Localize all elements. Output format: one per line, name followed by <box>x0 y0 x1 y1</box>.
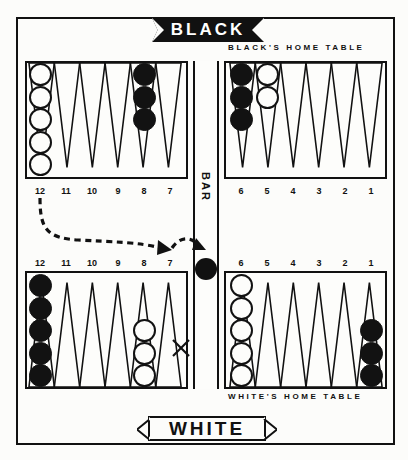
checker-black-point-12[interactable] <box>29 342 52 365</box>
banner-wedge-right <box>263 419 277 440</box>
checker-white-point-12[interactable] <box>29 63 52 86</box>
checker-black-point-8[interactable] <box>133 86 156 109</box>
point-number-bottom-left-7: 7 <box>162 258 178 268</box>
checker-black-point-8[interactable] <box>133 108 156 131</box>
checker-black-point-12[interactable] <box>29 274 52 297</box>
point-number-top-left-7: 7 <box>162 186 178 196</box>
checker-black-point-1[interactable] <box>360 319 383 342</box>
checker-white-point-8[interactable] <box>133 364 156 387</box>
point-number-bottom-right-1: 1 <box>363 258 379 268</box>
checker-white-point-8[interactable] <box>133 342 156 365</box>
banner-wedge-left <box>137 419 151 440</box>
checker-black-point-8[interactable] <box>133 63 156 86</box>
checker-white-point-6[interactable] <box>230 319 253 342</box>
point-number-bottom-right-6: 6 <box>233 258 249 268</box>
checker-black-point-12[interactable] <box>29 319 52 342</box>
black-player-banner: BLACK <box>152 18 264 42</box>
point-number-top-left-8: 8 <box>136 186 152 196</box>
white-player-banner: WHITE <box>148 416 266 441</box>
black-home-table-caption: BLACK'S HOME TABLE <box>228 43 365 52</box>
backgammon-board: BLACK BLACK'S HOME TABLE <box>0 0 408 460</box>
checker-black-point-1[interactable] <box>360 342 383 365</box>
point-number-top-right-4: 4 <box>285 186 301 196</box>
checker-white-point-12[interactable] <box>29 108 52 131</box>
point-number-bottom-left-9: 9 <box>110 258 126 268</box>
point-number-top-right-1: 1 <box>363 186 379 196</box>
point-number-top-left-10: 10 <box>84 186 100 196</box>
point-number-top-right-5: 5 <box>259 186 275 196</box>
point-number-bottom-left-12: 12 <box>32 258 48 268</box>
checker-black-point-12[interactable] <box>29 364 52 387</box>
white-player-label: WHITE <box>169 418 245 440</box>
point-number-bottom-right-5: 5 <box>259 258 275 268</box>
white-home-table-caption: WHITE'S HOME TABLE <box>228 392 362 401</box>
checker-white-point-6[interactable] <box>230 364 253 387</box>
checker-white-point-12[interactable] <box>29 86 52 109</box>
point-number-bottom-right-4: 4 <box>285 258 301 268</box>
point-number-top-left-12: 12 <box>32 186 48 196</box>
checker-white-point-8[interactable] <box>133 319 156 342</box>
point-number-bottom-left-8: 8 <box>136 258 152 268</box>
checker-white-point-6[interactable] <box>230 274 253 297</box>
bar-label: BAR <box>200 172 212 202</box>
checker-black-point-1[interactable] <box>360 364 383 387</box>
point-number-top-right-3: 3 <box>311 186 327 196</box>
point-number-bottom-right-3: 3 <box>311 258 327 268</box>
checker-black-point-6[interactable] <box>230 108 253 131</box>
checker-black-point-6[interactable] <box>230 86 253 109</box>
point-number-top-right-2: 2 <box>337 186 353 196</box>
target-x-icon <box>170 337 192 359</box>
checker-white-point-12[interactable] <box>29 131 52 154</box>
point-number-bottom-right-2: 2 <box>337 258 353 268</box>
checker-black-point-12[interactable] <box>29 297 52 320</box>
checker-white-point-5[interactable] <box>256 86 279 109</box>
checker-black-point-6[interactable] <box>230 63 253 86</box>
point-number-top-right-6: 6 <box>233 186 249 196</box>
point-number-bottom-left-10: 10 <box>84 258 100 268</box>
banner-notch-left-white <box>149 417 164 440</box>
bar-channel: BAR <box>193 61 219 389</box>
checker-white-point-5[interactable] <box>256 63 279 86</box>
point-number-bottom-left-11: 11 <box>58 258 74 268</box>
checker-white-point-12[interactable] <box>29 153 52 176</box>
banner-notch-right <box>252 18 264 42</box>
point-number-top-left-9: 9 <box>110 186 126 196</box>
point-number-top-left-11: 11 <box>58 186 74 196</box>
checker-white-point-6[interactable] <box>230 342 253 365</box>
black-player-label: BLACK <box>171 20 246 40</box>
checker-white-point-6[interactable] <box>230 297 253 320</box>
bar-checker-black[interactable] <box>195 258 217 280</box>
